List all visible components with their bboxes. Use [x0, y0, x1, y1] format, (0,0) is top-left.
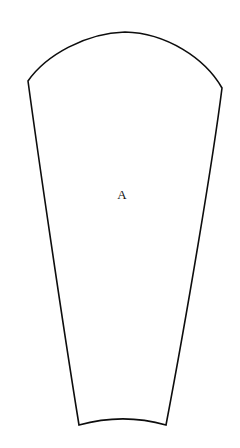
part-label-a: A: [117, 188, 127, 201]
figure-canvas: A: [0, 0, 240, 448]
figure-svg: [0, 0, 240, 448]
